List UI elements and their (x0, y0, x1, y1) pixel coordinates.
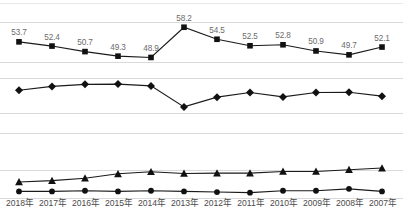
panel-1-square-series-label-3: 49.3 (110, 43, 126, 52)
panel-4-circle-series-point-1 (49, 188, 55, 194)
panel-1-square-series-label-2: 50.7 (77, 38, 93, 47)
panel-1-square-series-point-6 (214, 36, 220, 42)
panel-4-circle-series-point-9 (313, 188, 319, 194)
x-tick-label-4: 2014年 (138, 197, 166, 208)
panel-4-circle-series-point-4 (148, 188, 154, 194)
x-tick-label-0: 2018年 (6, 197, 34, 208)
panel-4-circle-series-point-8 (280, 188, 286, 194)
x-tick-label-5: 2013年 (171, 197, 199, 208)
panel-1-square-series-label-6: 54.5 (209, 26, 225, 35)
x-tick-label-9: 2009年 (303, 197, 331, 208)
panel-4-circle-series-point-11 (379, 188, 385, 194)
panel-4-circle-series-point-6 (214, 189, 220, 195)
panel-1-square-series-point-0 (16, 39, 22, 45)
panel-4-circle-series-point-5 (181, 188, 187, 194)
x-tick-label-11: 2007年 (369, 197, 397, 208)
panel-1-square-series-label-1: 52.4 (44, 33, 60, 42)
panel-1-square-series-point-4 (148, 55, 154, 61)
panel-1-square-series-label-8: 52.8 (275, 31, 291, 40)
panel-1-square-series-label-4: 48.9 (143, 44, 159, 53)
panel-1-square-series-point-11 (379, 44, 385, 50)
panel-1-square-series-point-10 (346, 52, 352, 58)
x-tick-label-7: 2011年 (237, 197, 264, 208)
panel-1-square-series-point-3 (115, 53, 121, 59)
panel-1-square-series-label-7: 52.5 (242, 32, 258, 41)
panel-4-circle-series-point-3 (115, 188, 121, 194)
panel-1-square-series-label-11: 52.1 (374, 34, 390, 43)
panel-1-square-series-point-5 (181, 24, 187, 30)
x-tick-label-8: 2010年 (270, 197, 298, 208)
x-tick-label-1: 2017年 (39, 197, 67, 208)
panel-1-square-series-point-1 (49, 43, 55, 49)
panel-1-square-series-point-2 (82, 49, 88, 55)
multi-panel-line-chart: 53.752.450.749.348.958.254.552.552.850.9… (0, 0, 403, 209)
x-tick-label-6: 2012年 (204, 197, 232, 208)
panel-4-circle-series-point-2 (82, 188, 88, 194)
panel-4-circle-series-point-0 (16, 188, 22, 194)
panel-1-square-series-point-7 (247, 43, 253, 49)
x-tick-label-3: 2015年 (105, 197, 133, 208)
panel-4-circle-series-point-7 (247, 190, 253, 196)
x-tick-label-2: 2016年 (72, 197, 100, 208)
panel-1-square-series-label-0: 53.7 (11, 28, 27, 37)
chart-container: 53.752.450.749.348.958.254.552.552.850.9… (0, 0, 403, 209)
panel-4-circle-series-point-10 (346, 186, 352, 192)
panel-1-square-series-label-9: 50.9 (308, 37, 324, 46)
panel-1-square-series-point-8 (280, 42, 286, 48)
panel-1-square-series-label-10: 49.7 (341, 41, 357, 50)
chart-background (0, 0, 403, 209)
x-tick-label-10: 2008年 (336, 197, 364, 208)
panel-1-square-series-label-5: 58.2 (176, 14, 192, 23)
panel-1-square-series-point-9 (313, 48, 319, 54)
